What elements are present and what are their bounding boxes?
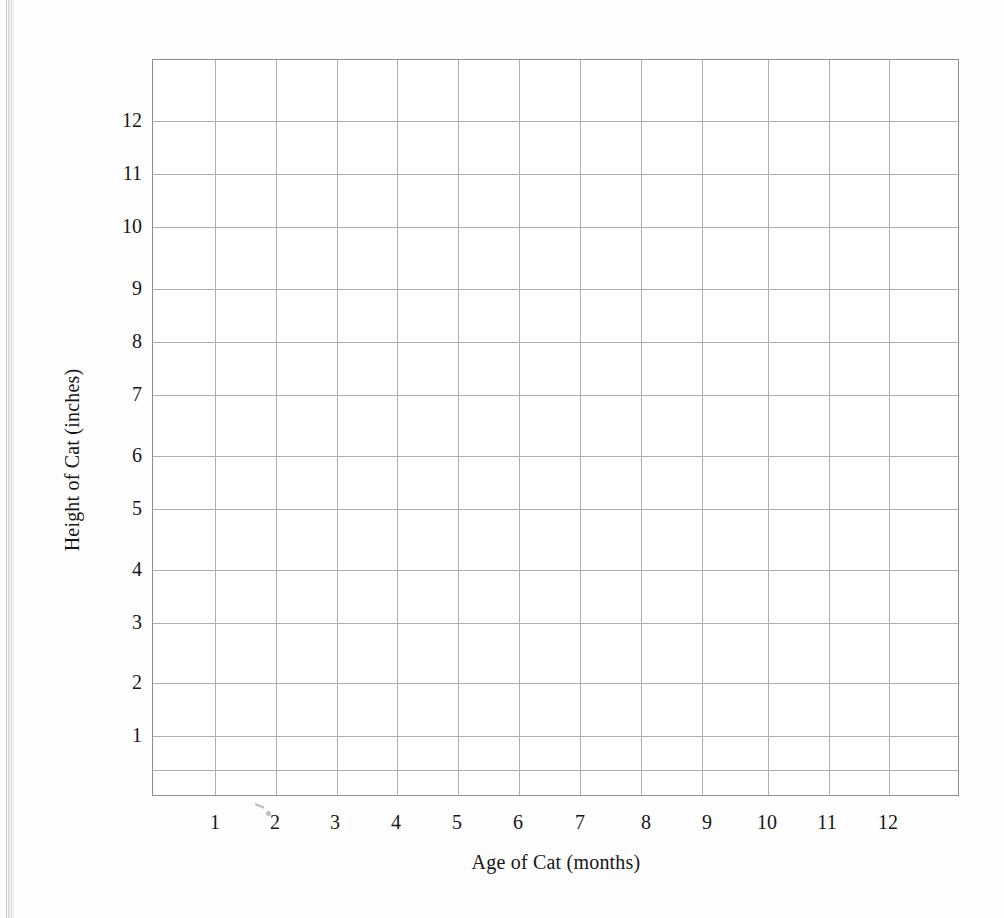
gridline-vertical: [580, 60, 581, 795]
gridline-horizontal: [153, 395, 958, 396]
gridline-vertical: [337, 60, 338, 795]
gridline-horizontal: [153, 456, 958, 457]
gridline-horizontal: [153, 342, 958, 343]
x-axis-tick-label: 6: [513, 812, 523, 832]
x-axis-tick-label: 3: [330, 812, 340, 832]
y-axis-tick-label: 9: [102, 278, 142, 298]
gridline-horizontal: [153, 736, 958, 737]
x-axis-tick-label: 5: [452, 812, 462, 832]
gridline-horizontal: [153, 683, 958, 684]
x-axis-tick-label: 1: [210, 812, 220, 832]
gridline-vertical: [641, 60, 642, 795]
gridline-horizontal: [153, 623, 958, 624]
gridline-vertical: [889, 60, 890, 795]
y-axis-tick-label: 7: [102, 384, 142, 404]
x-axis-tick-label: 4: [391, 812, 401, 832]
gridline-vertical: [458, 60, 459, 795]
x-axis-tick-label: 8: [641, 812, 651, 832]
y-axis-tick-label: 11: [102, 163, 142, 183]
gridline-vertical: [215, 60, 216, 795]
y-axis-tick-label: 10: [102, 216, 142, 236]
x-axis-tick-label: 9: [702, 812, 712, 832]
plot-area[interactable]: [152, 59, 959, 796]
gridline-vertical: [276, 60, 277, 795]
gridline-horizontal: [153, 570, 958, 571]
y-axis-tick-label: 6: [102, 445, 142, 465]
gridline-horizontal: [153, 227, 958, 228]
gridline-vertical: [768, 60, 769, 795]
gridline-vertical: [397, 60, 398, 795]
scanned-page: 123456789101112 121110987654321 Age of C…: [0, 0, 1004, 918]
gridline-horizontal: [153, 174, 958, 175]
y-axis-tick-label: 4: [102, 559, 142, 579]
y-axis-tick-label: 3: [102, 612, 142, 632]
x-axis-tick-label: 7: [575, 812, 585, 832]
gridline-horizontal: [153, 289, 958, 290]
x-axis-tick-label: 11: [817, 812, 836, 832]
x-axis-tick-label: 10: [757, 812, 777, 832]
gridline-vertical: [519, 60, 520, 795]
gridlines: [153, 60, 958, 795]
coordinate-grid-chart: 123456789101112 121110987654321 Age of C…: [0, 0, 1004, 918]
x-axis-tick-label: 2: [270, 812, 280, 832]
x-axis-title: Age of Cat (months): [472, 851, 641, 874]
gridline-vertical: [702, 60, 703, 795]
gridline-horizontal: [153, 509, 958, 510]
y-axis-title: Height of Cat (inches): [61, 369, 84, 552]
gridline-horizontal: [153, 770, 958, 771]
gridline-horizontal: [153, 121, 958, 122]
y-axis-tick-label: 1: [102, 725, 142, 745]
y-axis-tick-label: 12: [102, 110, 142, 130]
x-axis-tick-label: 12: [878, 812, 898, 832]
y-axis-tick-label: 5: [102, 498, 142, 518]
gridline-vertical: [829, 60, 830, 795]
y-axis-tick-label: 8: [102, 331, 142, 351]
y-axis-tick-label: 2: [102, 672, 142, 692]
